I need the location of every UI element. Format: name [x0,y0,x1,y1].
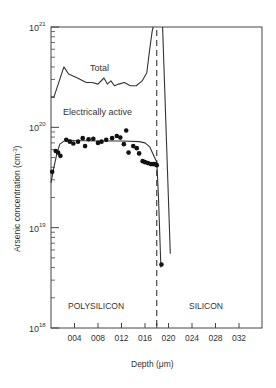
x-tick-label: 012 [114,333,128,343]
y-tick-exponent: 18 [39,322,46,328]
y-tick-base: 10 [29,224,39,234]
x-tick-label: 032 [232,333,246,343]
data-point [124,128,129,133]
data-point [104,138,109,143]
arsenic-concentration-chart: 1018101910201021004008012016020024028032… [0,0,276,388]
data-point [71,141,76,146]
polysilicon-region-label: POLYSILICON [68,301,124,311]
y-tick-label: 1018 [29,322,46,334]
data-point [137,151,142,156]
data-point [154,163,159,168]
series-line [163,27,171,254]
data-point [110,136,115,141]
y-tick-label: 1019 [29,222,46,234]
x-tick-label: 024 [185,333,199,343]
y-tick-base: 10 [29,23,39,33]
y-axis-title-main: Arsenic concentration (cm [12,154,22,252]
x-tick-label: 008 [91,333,105,343]
data-point [122,142,127,147]
data-point [99,139,104,144]
total-label: Total [90,63,109,73]
data-point [58,154,63,159]
electrically-active-label: Electrically active [63,107,132,117]
data-point [91,136,96,141]
data-point [76,139,81,144]
y-axis-title-close: ) [12,145,22,148]
data-point [118,135,123,140]
axis-ticks: 1018101910201021004008012016020024028032 [29,21,246,343]
x-axis-title: Depth (μm) [131,359,174,369]
series-line [51,140,161,268]
data-point [134,146,139,151]
data-point [159,262,164,267]
y-tick-exponent: 19 [39,222,46,228]
y-tick-base: 10 [29,123,39,133]
data-point [83,144,88,149]
y-tick-exponent: 20 [39,121,46,127]
x-tick-label: 016 [138,333,152,343]
data-point [86,137,91,142]
y-tick-exponent: 21 [39,21,46,27]
data-point [50,170,55,175]
data-point [80,136,85,141]
y-tick-label: 1020 [29,121,46,133]
data-series [50,27,170,328]
x-tick-label: 020 [161,333,175,343]
y-tick-base: 10 [29,324,39,334]
y-tick-label: 1021 [29,21,46,33]
x-tick-label: 028 [208,333,222,343]
silicon-region-label: SILICON [189,301,223,311]
data-point [126,150,131,155]
y-axis-title: Arsenic concentration (cm-3) [12,145,22,252]
x-tick-label: 004 [67,333,81,343]
